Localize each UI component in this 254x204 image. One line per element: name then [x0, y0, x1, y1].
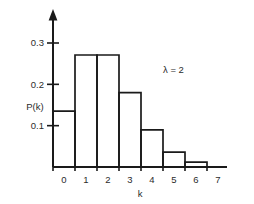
x-axis-title: k: [138, 188, 143, 199]
y-axis-title: P(k): [26, 101, 43, 112]
bar-k2: [97, 55, 119, 167]
x-tick-label-6: 6: [193, 174, 198, 185]
y-axis-arrow-icon: [49, 9, 58, 21]
y-axis-tick-labels: 0.1 0.2 0.3: [31, 37, 44, 131]
bar-k5: [163, 152, 185, 167]
x-tick-label-0: 0: [61, 174, 66, 185]
bar-k1: [75, 55, 97, 167]
poisson-histogram-figure: 0.1 0.2 0.3 P(k) 0 1 2 3 4 5 6 7: [0, 0, 254, 204]
x-tick-label-3: 3: [127, 174, 132, 185]
x-tick-label-5: 5: [171, 174, 176, 185]
y-tick-label-1: 0.2: [31, 79, 44, 90]
bar-series-group: [53, 55, 207, 167]
y-axis: [49, 9, 58, 167]
x-tick-label-4: 4: [149, 174, 154, 185]
bar-k3: [119, 93, 141, 167]
x-tick-label-1: 1: [83, 174, 88, 185]
x-tick-label-2: 2: [105, 174, 110, 185]
y-tick-label-2: 0.3: [31, 37, 44, 48]
x-axis-tick-labels: 0 1 2 3 4 5 6 7: [61, 174, 220, 185]
chart-canvas: 0.1 0.2 0.3 P(k) 0 1 2 3 4 5 6 7: [0, 0, 254, 204]
x-tick-label-7: 7: [215, 174, 220, 185]
lambda-annotation: λ = 2: [163, 64, 184, 75]
bar-k4: [141, 130, 163, 167]
bar-k0: [53, 111, 75, 167]
y-tick-label-0: 0.1: [31, 120, 44, 131]
